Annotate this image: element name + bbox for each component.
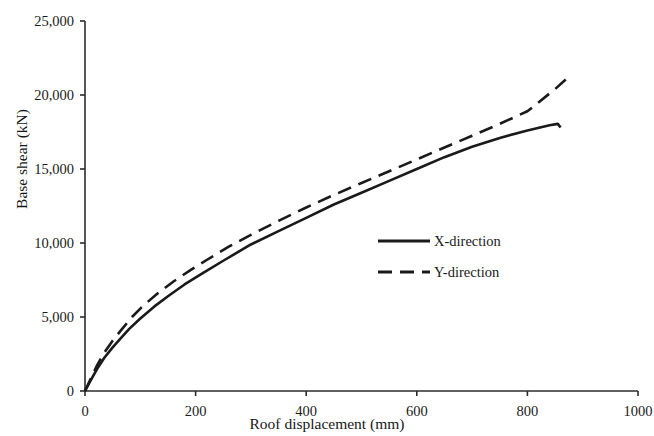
legend-sample-lines: [378, 241, 430, 272]
axes: [85, 21, 638, 391]
y-axis-tick-label: 5,000: [0, 310, 74, 325]
x-axis-title: Roof displacement (mm): [0, 415, 654, 433]
legend-label-y-direction: Y-direction: [434, 264, 499, 281]
chart-plot-area: [0, 0, 654, 436]
y-axis-tick-label: 20,000: [0, 88, 74, 103]
y-axis-tick-label: 25,000: [0, 14, 74, 29]
series-line-x-direction: [85, 124, 561, 391]
y-axis-title: Base shear (kN): [13, 79, 31, 239]
y-axis-tick-label: 15,000: [0, 162, 74, 177]
legend-label-x-direction: X-direction: [434, 233, 501, 250]
y-axis-tick-label: 10,000: [0, 236, 74, 251]
y-axis-tick-label: 0: [0, 384, 74, 399]
pushover-curve-figure: 05,00010,00015,00020,00025,000 020040060…: [0, 0, 654, 436]
